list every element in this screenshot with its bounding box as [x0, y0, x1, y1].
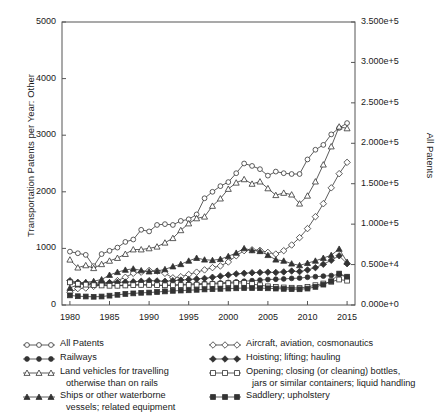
y-tick-right: 2.000e+5: [361, 137, 421, 147]
legend-marker: [22, 391, 56, 403]
legend-left-item[interactable]: All Patents: [22, 338, 217, 351]
y-tick-right: 0.500e+4: [361, 259, 421, 269]
y-tick-right: 1.500e+5: [361, 178, 421, 188]
legend-marker: [22, 339, 56, 351]
x-tick: 2015: [327, 312, 367, 322]
legend-marker: [22, 367, 56, 379]
x-tick: 1980: [50, 312, 90, 322]
legend-left-item[interactable]: Land vehicles for travellingotherwise th…: [22, 366, 217, 389]
legend-left-item[interactable]: Ships or other waterbornevessels; relate…: [22, 390, 217, 413]
legend-label: Aircraft, aviation, cosmonautics: [246, 338, 373, 350]
legend-column-left: All PatentsRailwaysLand vehicles for tra…: [22, 338, 217, 414]
y-tick-right: 1.000e+5: [361, 218, 421, 228]
legend-key-filled-triangle-icon: [22, 391, 56, 403]
legend-label-line2: jars or similar containers; liquid handl…: [246, 378, 415, 390]
y-tick-left: 4000: [12, 73, 56, 83]
legend-label: Railways: [60, 352, 97, 364]
legend-right-item[interactable]: Saddlery; upholstery: [208, 390, 426, 403]
y-tick-left: 2000: [12, 186, 56, 196]
legend-label: Saddlery; upholstery: [246, 390, 330, 402]
y-tick-left: 5000: [12, 16, 56, 26]
legend-marker: [208, 367, 242, 379]
legend-label: Land vehicles for travellingotherwise th…: [60, 366, 169, 389]
legend-key-open-triangle-icon: [22, 367, 56, 379]
x-tick: 1985: [90, 312, 130, 322]
x-tick: 2005: [248, 312, 288, 322]
legend-label: Ships or other waterbornevessels; relate…: [60, 390, 175, 413]
x-tick: 2010: [287, 312, 327, 322]
legend-label-line2: otherwise than on rails: [60, 378, 169, 390]
legend-key-filled-circle-icon: [22, 353, 56, 365]
legend-column-right: Aircraft, aviation, cosmonauticsHoisting…: [208, 338, 426, 404]
legend-marker: [208, 339, 242, 351]
legend-key-open-square-icon: [208, 367, 242, 379]
legend-right-item[interactable]: Hoisting; lifting; hauling: [208, 352, 426, 365]
y-tick-right: 0.000e+0: [361, 299, 421, 309]
legend-right-item[interactable]: Opening; closing (or cleaning) bottles,j…: [208, 366, 426, 389]
legend-left-item[interactable]: Railways: [22, 352, 217, 365]
legend-key-open-diamond-icon: [208, 339, 242, 351]
y-axis-right-title: All Patents: [425, 56, 436, 256]
legend-label: Opening; closing (or cleaning) bottles,j…: [246, 366, 415, 389]
y-tick-left: 3000: [12, 129, 56, 139]
legend-right-item[interactable]: Aircraft, aviation, cosmonautics: [208, 338, 426, 351]
legend-key-filled-square-icon: [208, 391, 242, 403]
legend-marker: [208, 391, 242, 403]
legend-label: All Patents: [60, 338, 104, 350]
y-tick-left: 1000: [12, 242, 56, 252]
x-tick: 1990: [129, 312, 169, 322]
legend-label: Hoisting; lifting; hauling: [246, 352, 340, 364]
x-tick: 1995: [169, 312, 209, 322]
x-tick: 2000: [208, 312, 248, 322]
legend-label-line2: vessels; related equipment: [60, 402, 175, 414]
y-tick-right: 3.500e+5: [361, 16, 421, 26]
legend-marker: [22, 353, 56, 365]
legend-marker: [208, 353, 242, 365]
y-tick-right: 2.500e+5: [361, 97, 421, 107]
y-tick-left: 0: [12, 299, 56, 309]
legend-key-filled-diamond-icon: [208, 353, 242, 365]
legend-key-open-circle-icon: [22, 339, 56, 351]
y-tick-right: 3.000e+5: [361, 56, 421, 66]
